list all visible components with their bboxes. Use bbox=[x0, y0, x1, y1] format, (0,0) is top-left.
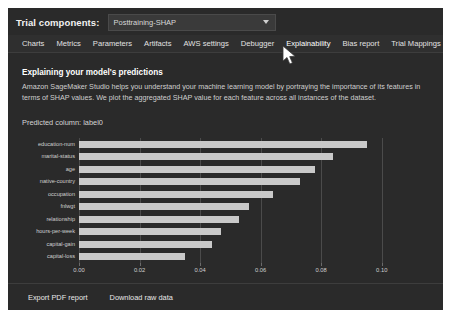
export-pdf-report-button[interactable]: Export PDF report bbox=[22, 290, 94, 305]
axis-category-label: native-country bbox=[40, 178, 75, 185]
chart-bar-row: education-num bbox=[79, 138, 412, 151]
panel-content: Explaining your model's predictions Amaz… bbox=[8, 52, 443, 310]
chart-bar bbox=[79, 228, 221, 235]
chart-bar bbox=[79, 216, 239, 223]
axis-category-label: marital-status bbox=[41, 153, 75, 160]
chart-bar bbox=[79, 178, 300, 185]
axis-category-label: capital-gain bbox=[46, 241, 75, 248]
axis-tick-label: 0.02 bbox=[134, 267, 145, 273]
chevron-down-icon bbox=[263, 20, 269, 24]
chart-bar-row: marital-status bbox=[79, 151, 412, 164]
download-raw-data-button[interactable]: Download raw data bbox=[104, 290, 179, 305]
axis-category-label: fnlwgt bbox=[60, 203, 75, 210]
chart-bar-row: fnlwgt bbox=[79, 201, 412, 214]
axis-tick bbox=[261, 263, 262, 266]
axis-category-label: capital-loss bbox=[47, 253, 75, 260]
axis-tick bbox=[321, 263, 322, 266]
chart-bar bbox=[79, 166, 315, 173]
chart-bar bbox=[79, 153, 333, 160]
axis-category-label: education-num bbox=[38, 141, 75, 148]
tab-debugger[interactable]: Debugger bbox=[235, 35, 280, 52]
section-title: Explaining your model's predictions bbox=[22, 68, 163, 77]
axis-tick bbox=[382, 263, 383, 266]
axis-tick-label: 0.00 bbox=[73, 267, 84, 273]
axis-tick-label: 0.04 bbox=[194, 267, 205, 273]
axis-tick bbox=[79, 263, 80, 266]
tab-bias-report[interactable]: Bias report bbox=[337, 35, 386, 52]
axis-tick bbox=[200, 263, 201, 266]
chart-bar-row: capital-loss bbox=[79, 251, 412, 264]
chart-bar-row: capital-gain bbox=[79, 238, 412, 251]
axis-category-label: hours-per-week bbox=[36, 228, 75, 235]
trial-components-select[interactable]: Posttraining-SHAP bbox=[108, 14, 276, 31]
chart-bar bbox=[79, 203, 249, 210]
trial-components-label: Trial components: bbox=[16, 17, 100, 28]
chart-x-axis: 0.000.020.040.060.080.10 bbox=[79, 263, 412, 277]
trial-components-selected-value: Posttraining-SHAP bbox=[109, 18, 177, 27]
chart-bar-row: age bbox=[79, 163, 412, 176]
chart-bar bbox=[79, 141, 367, 148]
axis-tick-label: 0.10 bbox=[376, 267, 387, 273]
tab-charts[interactable]: Charts bbox=[16, 35, 50, 52]
axis-category-label: relationship bbox=[46, 216, 75, 223]
predicted-column-label: Predicted column: label0 bbox=[22, 118, 103, 127]
tab-aws-settings[interactable]: AWS settings bbox=[178, 35, 235, 52]
chart-bar-row: hours-per-week bbox=[79, 226, 412, 239]
chart-bar bbox=[79, 241, 212, 248]
chart-plot-area: education-nummarital-statusagenative-cou… bbox=[79, 138, 412, 263]
axis-tick-label: 0.06 bbox=[255, 267, 266, 273]
chart-bar bbox=[79, 191, 273, 198]
screenshot-root: Trial components: Posttraining-SHAP Char… bbox=[0, 0, 451, 318]
chart-bar-row: occupation bbox=[79, 188, 412, 201]
shap-feature-importance-chart: education-nummarital-statusagenative-cou… bbox=[22, 136, 422, 276]
section-description: Amazon SageMaker Studio helps you unders… bbox=[22, 82, 434, 103]
chart-bar bbox=[79, 253, 185, 260]
axis-category-label: occupation bbox=[48, 191, 75, 198]
tab-trial-mappings[interactable]: Trial Mappings bbox=[385, 35, 447, 52]
explainability-panel: Trial components: Posttraining-SHAP Char… bbox=[8, 8, 443, 310]
mouse-cursor-icon bbox=[282, 46, 298, 66]
chart-bar-row: relationship bbox=[79, 213, 412, 226]
axis-category-label: age bbox=[66, 166, 75, 173]
chart-bar-row: native-country bbox=[79, 176, 412, 189]
tab-bar: ChartsMetricsParametersArtifactsAWS sett… bbox=[8, 35, 443, 53]
tab-metrics[interactable]: Metrics bbox=[50, 35, 86, 52]
axis-tick-label: 0.08 bbox=[316, 267, 327, 273]
footer-actions: Export PDF report Download raw data bbox=[8, 283, 443, 310]
trial-components-bar: Trial components: Posttraining-SHAP bbox=[16, 12, 276, 32]
tab-parameters[interactable]: Parameters bbox=[87, 35, 138, 52]
tab-artifacts[interactable]: Artifacts bbox=[138, 35, 177, 52]
axis-tick bbox=[140, 263, 141, 266]
